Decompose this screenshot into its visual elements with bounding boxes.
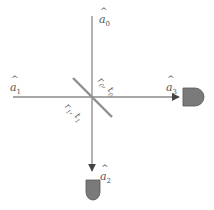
detector-right-icon: [183, 88, 204, 106]
mode-label-a1: ^a1: [10, 82, 21, 96]
detector-bottom-icon: [86, 180, 100, 200]
mode-label-a2: ^a2: [100, 171, 111, 185]
mode-label-a0: ^a0: [99, 14, 110, 28]
mode-label-a3: ^a3: [166, 82, 177, 96]
